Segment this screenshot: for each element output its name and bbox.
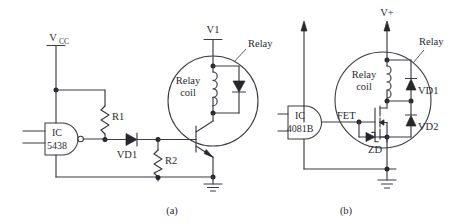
panel-a-ic-output-bubble — [78, 136, 84, 142]
panel-b-relay-boundary — [335, 52, 431, 148]
panel-b-gnd-node — [385, 167, 390, 172]
panel-a-v1-label: V1 — [207, 24, 220, 35]
panel-b-ic-part: 4081B — [287, 123, 314, 134]
panel-b-relay-coil — [387, 60, 391, 101]
panel-a-relay-coil-label-2: coil — [180, 87, 196, 98]
panel-a-r2-label: R2 — [165, 155, 177, 166]
panel-a-flyback-diode — [213, 66, 246, 113]
panel-b-vplus-label: V+ — [380, 7, 394, 18]
panel-a-vcc-label-main: V — [49, 32, 57, 43]
panel-b-ground-symbol — [378, 180, 396, 188]
panel-a-ic-name: IC — [52, 127, 62, 138]
panel-b-ic-name: IC — [295, 110, 305, 121]
panel-a-relay-callout-label: Relay — [248, 38, 273, 49]
panel-b-supply-arrow — [301, 21, 307, 122]
panel-a-r1-label: R1 — [112, 111, 124, 122]
panel-a-vcc-label-sub: CC — [59, 37, 69, 46]
panel-a-r2-bottom-node — [156, 175, 161, 180]
panel-a-ic-part: 5438 — [47, 140, 67, 151]
panel-a-vcc-terminal — [47, 46, 65, 91]
panel-b-fet-label: FET — [337, 110, 356, 121]
panel-a-resistor-r1 — [101, 106, 109, 140]
panel-a-relay-coil-label-1: Relay — [176, 75, 201, 86]
circuit-diagram-svg: V CC R1 IC 5438 — [0, 0, 465, 224]
panel-b-vd2-label: VD2 — [418, 121, 438, 132]
panel-a-relay-callout-leader — [234, 49, 246, 62]
panel-b-caption: (b) — [340, 205, 353, 217]
panel-b-diode-vd2 — [387, 101, 417, 137]
panel-b-vplus-terminal — [384, 21, 390, 60]
panel-b-zener-zd — [359, 122, 387, 142]
panel-b-relay-callout-label: Relay — [419, 36, 444, 47]
panel-b-zd-label: ZD — [368, 144, 382, 155]
panel-b-relay-coil-label-1: Relay — [352, 69, 377, 80]
figure-root: V CC R1 IC 5438 — [0, 0, 465, 224]
panel-a-v1-terminal — [204, 40, 222, 67]
panel-a-relay-coil — [213, 66, 217, 113]
panel-b: IC 4081B FET Relay V+ — [278, 7, 444, 217]
panel-b-vd1-label: VD1 — [418, 85, 438, 96]
panel-a-diode-vd1 — [126, 133, 137, 146]
panel-a-caption: (a) — [166, 205, 178, 217]
panel-b-relay-callout-leader — [413, 50, 424, 63]
panel-a-vd1-label: VD1 — [117, 149, 137, 160]
panel-a: V CC R1 IC 5438 — [23, 24, 273, 217]
panel-b-relay-coil-label-2: coil — [356, 81, 372, 92]
panel-a-ground-symbol — [204, 177, 222, 191]
